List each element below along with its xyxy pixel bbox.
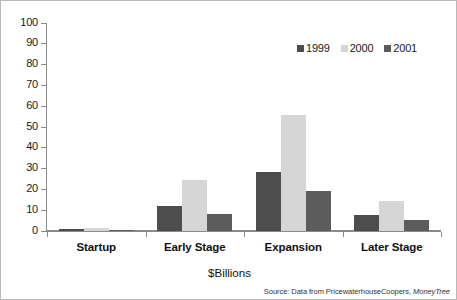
y-axis-tick-mark	[41, 127, 46, 128]
bar-group	[244, 23, 343, 231]
y-axis-tick-label: 20	[26, 182, 38, 195]
bar-expansion-2000[interactable]	[281, 115, 306, 231]
category-label-early-stage: Early Stage	[146, 241, 245, 253]
y-axis-tick-mark	[41, 43, 46, 44]
y-axis-tick-label: 80	[26, 57, 38, 70]
category-separator-tick	[441, 232, 442, 237]
legend-label: 1999	[306, 42, 330, 54]
y-axis-tick-label: 0	[32, 224, 38, 237]
bar-group	[343, 23, 442, 231]
y-axis-tick-mark	[41, 23, 46, 24]
y-axis-tick-label: 90	[26, 36, 38, 49]
source-note: Source: Data from PricewaterhouseCoopers…	[264, 287, 450, 296]
y-axis-tick-label: 70	[26, 78, 38, 91]
source-note-prefix: Source: Data from PricewaterhouseCoopers…	[264, 287, 413, 296]
legend-swatch-icon	[297, 45, 304, 52]
legend-swatch-icon	[384, 45, 391, 52]
y-axis-tick-label: 40	[26, 140, 38, 153]
y-axis-tick-mark	[41, 168, 46, 169]
bar-group	[146, 23, 245, 231]
x-axis-title: $Billions	[1, 267, 457, 279]
bar-chart-figure: 1009080706050403020100 StartupEarly Stag…	[0, 0, 457, 300]
category-separator-tick	[47, 232, 48, 237]
bar-later-stage-2000[interactable]	[379, 201, 404, 231]
category-label-startup: Startup	[47, 241, 146, 253]
y-axis-tick-mark	[41, 85, 46, 86]
legend-label: 2000	[350, 42, 374, 54]
bar-later-stage-2001[interactable]	[404, 220, 429, 231]
bar-early-stage-2000[interactable]	[182, 180, 207, 231]
legend-label: 2001	[393, 42, 417, 54]
category-label-expansion: Expansion	[244, 241, 343, 253]
y-axis-tick-mark	[41, 147, 46, 148]
y-axis-tick-label: 10	[26, 203, 38, 216]
y-axis-tick-mark	[41, 210, 46, 211]
y-axis-tick-label: 50	[26, 120, 38, 133]
bar-group	[47, 23, 146, 231]
category-axis-labels: StartupEarly StageExpansionLater Stage	[47, 241, 441, 253]
category-separator-tick	[146, 232, 147, 237]
y-axis-tick-mark	[41, 106, 46, 107]
bar-later-stage-1999[interactable]	[354, 215, 379, 231]
bar-expansion-1999[interactable]	[256, 172, 281, 231]
bar-groups	[47, 23, 441, 231]
bar-startup-1999[interactable]	[59, 229, 84, 231]
legend-swatch-icon	[341, 45, 348, 52]
bar-early-stage-1999[interactable]	[157, 206, 182, 231]
y-axis-tick-label: 100	[20, 16, 38, 29]
bar-early-stage-2001[interactable]	[207, 214, 232, 231]
y-axis-tick-mark	[41, 189, 46, 190]
category-separator-tick	[343, 232, 344, 237]
category-label-later-stage: Later Stage	[343, 241, 442, 253]
y-axis-tick-mark	[41, 231, 46, 232]
bar-startup-2001[interactable]	[109, 230, 134, 231]
source-note-italic: MoneyTree	[413, 287, 450, 296]
legend-item-2001[interactable]: 2001	[384, 42, 417, 54]
chart-legend: 199920002001	[297, 42, 417, 54]
y-axis-tick-mark	[41, 64, 46, 65]
y-axis-tick-label: 30	[26, 161, 38, 174]
y-axis-tick-label: 60	[26, 99, 38, 112]
legend-item-2000[interactable]: 2000	[341, 42, 374, 54]
bar-expansion-2001[interactable]	[306, 191, 331, 231]
bar-startup-2000[interactable]	[84, 228, 109, 231]
legend-item-1999[interactable]: 1999	[297, 42, 330, 54]
category-separator-tick	[244, 232, 245, 237]
